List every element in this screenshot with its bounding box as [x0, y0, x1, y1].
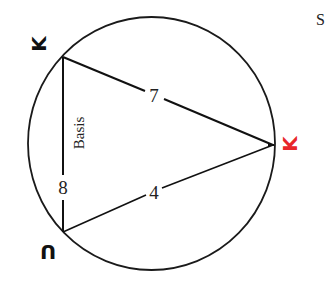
edge-bottom-right	[63, 195, 146, 232]
circle-triangle-diagram: 7 4 8 Basis K U K S	[0, 0, 325, 289]
vertex-label-bottom: U	[40, 240, 56, 264]
edge-top-right	[164, 99, 273, 145]
vertex-label-top: K	[27, 35, 51, 52]
basis-caption: Basis	[71, 117, 87, 150]
edge-top-right	[63, 57, 145, 91]
edge-label-7: 7	[149, 85, 159, 106]
edge-label-4: 4	[149, 182, 159, 203]
corner-letter: S	[316, 11, 325, 28]
edge-label-8: 8	[58, 177, 68, 198]
vertex-label-right: K	[278, 135, 302, 152]
circumcircle	[28, 17, 275, 270]
edge-bottom-right	[162, 145, 273, 188]
